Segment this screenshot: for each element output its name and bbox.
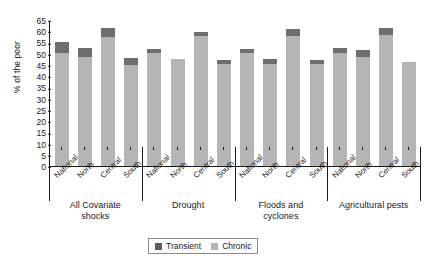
legend-item-transient: Transient bbox=[155, 241, 201, 251]
x-axis-tick bbox=[362, 147, 363, 150]
bar-series-container bbox=[50, 21, 420, 166]
bar-10 bbox=[286, 29, 300, 166]
x-axis-tick bbox=[61, 147, 62, 150]
bar-5 bbox=[171, 59, 185, 166]
group-separator bbox=[327, 147, 328, 201]
x-axis-tick bbox=[177, 147, 178, 150]
bar-12 bbox=[333, 48, 347, 166]
y-axis-tick: 40 bbox=[22, 73, 50, 82]
bar-segment-chronic bbox=[217, 64, 231, 166]
bar-15 bbox=[402, 62, 416, 166]
bar-segment-chronic bbox=[171, 59, 185, 166]
bar-segment-chronic bbox=[124, 65, 138, 166]
bar-1 bbox=[78, 48, 92, 166]
y-axis-tick: 65 bbox=[22, 17, 50, 26]
group-label-line: shocks bbox=[49, 211, 142, 222]
x-axis-tick bbox=[269, 147, 270, 150]
group-separator bbox=[420, 147, 421, 201]
bar-14 bbox=[379, 28, 393, 166]
group-label-0: All Covariateshocks bbox=[49, 200, 142, 222]
bar-segment-transient bbox=[101, 28, 115, 37]
group-separator bbox=[49, 147, 50, 201]
y-axis-tick: 55 bbox=[22, 39, 50, 48]
y-axis-tick: 15 bbox=[22, 129, 50, 138]
x-axis-tick bbox=[292, 147, 293, 150]
bar-3 bbox=[124, 58, 138, 166]
bar-segment-transient bbox=[310, 60, 324, 63]
x-axis-tick bbox=[246, 147, 247, 150]
legend-swatch-transient-icon bbox=[155, 243, 162, 250]
bar-segment-transient bbox=[286, 29, 300, 36]
bar-11 bbox=[310, 60, 324, 166]
bar-6 bbox=[194, 32, 208, 166]
bar-segment-chronic bbox=[55, 53, 69, 166]
bar-segment-transient bbox=[147, 49, 161, 52]
bar-segment-chronic bbox=[333, 53, 347, 166]
y-axis-tick: 50 bbox=[22, 50, 50, 59]
bar-segment-chronic bbox=[78, 57, 92, 166]
bar-13 bbox=[356, 50, 370, 166]
bar-segment-chronic bbox=[194, 36, 208, 166]
bar-segment-transient bbox=[263, 59, 277, 63]
bar-segment-transient bbox=[78, 48, 92, 57]
x-axis-tick bbox=[153, 147, 154, 150]
y-axis-tick: 0 bbox=[22, 163, 50, 172]
bar-2 bbox=[101, 28, 115, 166]
bar-segment-chronic bbox=[356, 57, 370, 166]
bar-segment-chronic bbox=[402, 62, 416, 166]
x-axis-tick bbox=[107, 147, 108, 150]
bar-segment-chronic bbox=[240, 53, 254, 166]
group-label-line: Drought bbox=[142, 200, 235, 211]
plot-area: 05101520253035404550556065 bbox=[49, 21, 420, 167]
y-axis-tick: 20 bbox=[22, 118, 50, 127]
group-label-3: Agricultural pests bbox=[327, 200, 420, 211]
bar-segment-transient bbox=[217, 60, 231, 63]
x-axis-tick bbox=[130, 147, 131, 150]
bar-segment-transient bbox=[124, 58, 138, 65]
bar-segment-transient bbox=[240, 49, 254, 52]
legend-label-chronic: Chronic bbox=[222, 241, 251, 251]
x-axis-tick bbox=[223, 147, 224, 150]
bar-segment-transient bbox=[55, 42, 69, 52]
bar-segment-chronic bbox=[286, 36, 300, 166]
bar-segment-chronic bbox=[147, 53, 161, 166]
y-axis-tick: 30 bbox=[22, 95, 50, 104]
group-label-2: Floods andcyclones bbox=[235, 200, 328, 222]
legend-label-transient: Transient bbox=[166, 241, 201, 251]
y-axis-tick: 10 bbox=[22, 140, 50, 149]
group-separator bbox=[235, 147, 236, 201]
group-label-line: Agricultural pests bbox=[327, 200, 420, 211]
chart-figure: % of the poor 05101520253035404550556065… bbox=[0, 0, 427, 265]
x-axis-tick bbox=[408, 147, 409, 150]
x-axis-tick bbox=[385, 147, 386, 150]
bar-8 bbox=[240, 49, 254, 166]
x-axis-tick bbox=[200, 147, 201, 150]
bar-segment-transient bbox=[356, 50, 370, 57]
bar-segment-transient bbox=[194, 32, 208, 35]
bar-0 bbox=[55, 42, 69, 166]
y-axis-tick: 60 bbox=[22, 28, 50, 37]
bar-segment-chronic bbox=[379, 35, 393, 166]
chart-legend: Transient Chronic bbox=[148, 238, 258, 254]
legend-item-chronic: Chronic bbox=[211, 241, 251, 251]
y-axis-tick: 5 bbox=[22, 152, 50, 161]
group-label-line: cyclones bbox=[235, 211, 328, 222]
y-axis-tick: 45 bbox=[22, 62, 50, 71]
y-axis-title: % of the poor bbox=[12, 17, 22, 117]
bar-segment-chronic bbox=[101, 37, 115, 166]
bar-segment-chronic bbox=[310, 64, 324, 166]
group-label-line: Floods and bbox=[235, 200, 328, 211]
y-axis-tick: 25 bbox=[22, 107, 50, 116]
bar-segment-chronic bbox=[263, 64, 277, 166]
bar-9 bbox=[263, 59, 277, 166]
y-axis-tick: 35 bbox=[22, 84, 50, 93]
bar-4 bbox=[147, 49, 161, 166]
bar-segment-transient bbox=[333, 48, 347, 52]
x-axis-tick bbox=[84, 147, 85, 150]
group-label-1: Drought bbox=[142, 200, 235, 211]
x-axis-tick bbox=[316, 147, 317, 150]
group-separator bbox=[142, 147, 143, 201]
group-label-line: All Covariate bbox=[49, 200, 142, 211]
x-axis-tick bbox=[339, 147, 340, 150]
bar-7 bbox=[217, 60, 231, 166]
